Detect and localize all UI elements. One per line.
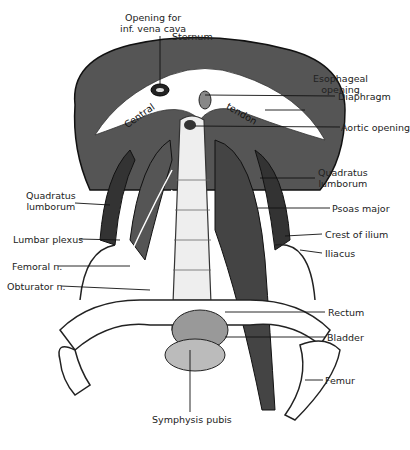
label-obturator-nerve: Obturator n. [7,281,65,292]
label-quadratus-left-line1: Quadratus [26,190,76,201]
label-quadratus-right-line1: Quadratus [318,167,368,178]
label-symphysis-pubis: Symphysis pubis [152,414,232,425]
label-diaphragm: Diaphragm [338,91,391,102]
label-quadratus-right-line2: lumborum [318,178,368,189]
label-femoral-nerve: Femoral n. [12,261,62,272]
label-aortic-opening: Aortic opening [341,122,410,133]
label-esophageal-line1: Esophageal [313,73,368,84]
label-opening-ivc-line1: Opening for [120,12,186,23]
label-bladder: Bladder [327,332,364,343]
femur-left [59,347,90,395]
label-lumbar-plexus: Lumbar plexus [13,234,83,245]
label-psoas-major: Psoas major [332,203,390,214]
bladder [165,339,225,371]
label-quadratus-right: Quadratus lumborum [318,167,368,189]
label-femur: Femur [325,375,355,386]
iliac-crest-left [80,245,115,300]
label-iliacus: Iliacus [325,248,355,259]
esophageal-opening [199,91,211,109]
label-quadratus-left-line2: lumborum [26,201,76,212]
label-crest-of-ilium: Crest of ilium [325,229,388,240]
label-rectum: Rectum [328,307,364,318]
iliac-crest-right [275,245,315,300]
label-quadratus-left: Quadratus lumborum [26,190,76,212]
aortic-opening [184,120,196,130]
label-sternum: Sternum [172,31,213,42]
